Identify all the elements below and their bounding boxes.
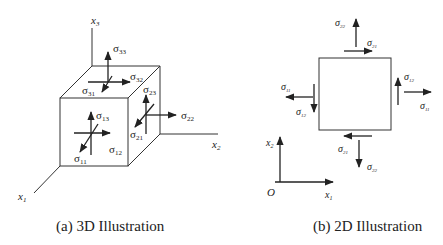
x3-label: x3 <box>90 14 100 28</box>
label-top-shear: σ21 <box>367 37 377 49</box>
panel-2d-illustration: x2 x1 O σ22 σ21 σ11 σ12 σ12 σ11 σ21 σ22 <box>265 17 431 201</box>
caption-3d: (a) 3D Illustration <box>56 218 164 235</box>
label-bottom-shear: σ21 <box>338 143 348 155</box>
x1-axis <box>34 166 60 193</box>
label-s12: σ12 <box>109 143 122 157</box>
panel-3d-illustration: x3 x2 x1 σ33 σ32 σ31 σ13 σ12 σ11 σ23 σ22… <box>17 14 221 204</box>
label-s33: σ33 <box>113 42 126 56</box>
label-s32: σ32 <box>130 70 143 84</box>
label-s31: σ31 <box>82 84 95 98</box>
label-s11: σ11 <box>74 152 87 166</box>
label-right-normal: σ11 <box>420 100 430 112</box>
caption-2d: (b) 2D Illustration <box>313 218 422 235</box>
label-s21: σ21 <box>130 128 143 142</box>
label-bottom-normal: σ22 <box>367 161 377 173</box>
arrow-s11 <box>80 124 98 152</box>
figure-canvas: x3 x2 x1 σ33 σ32 σ31 σ13 σ12 σ11 σ23 σ22… <box>0 0 443 245</box>
label-s13: σ13 <box>96 109 109 123</box>
label-top-normal: σ22 <box>335 17 345 29</box>
x1-label: x1 <box>17 190 26 204</box>
x2-label: x2 <box>211 138 221 152</box>
x1-label-2d: x1 <box>324 189 332 201</box>
label-right-shear: σ12 <box>404 71 414 83</box>
arrow-s31 <box>102 76 112 92</box>
label-s22: σ22 <box>181 109 194 123</box>
x2-label-2d: x2 <box>265 137 273 149</box>
label-s23: σ23 <box>143 83 156 97</box>
origin-label: O <box>267 186 275 198</box>
element-square <box>319 58 391 130</box>
label-left-shear: σ12 <box>296 106 306 118</box>
label-left-normal: σ11 <box>281 81 291 93</box>
